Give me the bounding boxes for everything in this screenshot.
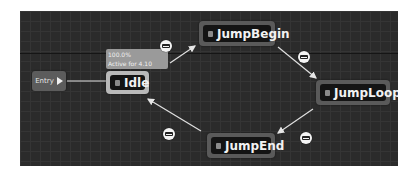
play-icon xyxy=(57,77,63,85)
state-machine-graph-canvas[interactable]: Entry 100.0% Active for 4.10 secs Idle J… xyxy=(20,11,398,166)
entry-label: Entry xyxy=(35,77,54,85)
transition-rule-icon xyxy=(165,132,173,136)
transition-rule-icon-jumpend-idle[interactable] xyxy=(163,128,175,140)
state-node-jumpend[interactable]: JumpEnd xyxy=(207,133,275,158)
transition-rule-icon-jumploop-jumpend[interactable] xyxy=(300,132,312,144)
transition-rule-icon xyxy=(162,44,170,48)
state-label: JumpLoop xyxy=(334,86,398,100)
state-label: JumpEnd xyxy=(225,139,284,153)
state-icon xyxy=(208,31,213,37)
state-node-idle[interactable]: Idle xyxy=(106,71,149,94)
wire-jumpbegin-jumploop xyxy=(278,47,316,78)
wire-jumpend-idle xyxy=(148,99,201,131)
transition-rule-icon-idle-jumpbegin[interactable] xyxy=(160,40,172,52)
debug-tooltip: 100.0% Active for 4.10 secs xyxy=(106,49,168,69)
state-icon xyxy=(115,80,120,86)
entry-node[interactable]: Entry xyxy=(32,71,66,91)
state-label: JumpBegin xyxy=(217,27,290,41)
state-icon xyxy=(216,143,221,149)
state-label: Idle xyxy=(124,76,149,90)
state-icon xyxy=(325,90,330,96)
tooltip-weight: 100.0% xyxy=(108,50,166,59)
wire-jumploop-jumpend xyxy=(278,109,313,133)
state-node-jumpbegin[interactable]: JumpBegin xyxy=(199,21,275,46)
transition-rule-icon-jumpbegin-jumploop[interactable] xyxy=(298,51,310,63)
transition-rule-icon xyxy=(302,136,310,140)
transition-rule-icon xyxy=(300,55,308,59)
state-node-jumploop[interactable]: JumpLoop xyxy=(316,80,390,105)
wire-idle-jumpbegin xyxy=(170,46,195,63)
